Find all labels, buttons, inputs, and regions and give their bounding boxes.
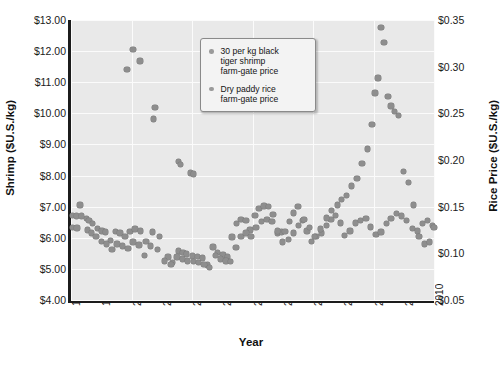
data-point <box>307 225 312 230</box>
data-point <box>148 243 153 248</box>
data-point <box>404 218 409 223</box>
data-point <box>301 217 306 222</box>
data-point <box>427 239 432 244</box>
legend-marker-shrimp-icon <box>209 49 214 54</box>
data-point <box>295 204 300 209</box>
left-axis-tick-label: $10.00 <box>34 108 66 119</box>
data-point <box>339 197 344 202</box>
data-point <box>385 94 390 99</box>
data-point <box>282 229 287 234</box>
data-point <box>388 103 393 108</box>
data-point <box>270 212 275 217</box>
data-point <box>104 241 109 246</box>
left-axis-tick-label: $8.00 <box>40 171 66 182</box>
data-point <box>372 90 377 95</box>
data-point <box>114 241 119 246</box>
data-point <box>384 221 389 226</box>
legend-label-shrimp: 30 per kg black tiger shrimp farm-gate p… <box>221 46 279 77</box>
data-point <box>420 221 425 226</box>
data-point <box>378 229 383 234</box>
data-point <box>388 216 393 221</box>
data-point <box>269 219 274 224</box>
data-point <box>138 228 143 233</box>
left-axis-tick-label: $4.00 <box>40 295 66 306</box>
data-point <box>200 255 205 260</box>
data-point <box>291 230 296 235</box>
data-point <box>318 226 323 231</box>
data-point <box>296 223 301 228</box>
data-point <box>399 213 404 218</box>
left-axis-tick-label: $13.00 <box>34 15 66 26</box>
right-axis-tick-label: $0.25 <box>438 108 464 119</box>
right-axis-tick-label: $0.30 <box>438 62 464 73</box>
data-point <box>184 251 189 256</box>
right-axis-tick-label: $0.20 <box>438 155 464 166</box>
data-point <box>137 58 142 63</box>
data-point <box>425 218 430 223</box>
data-point <box>155 247 160 252</box>
data-point <box>411 202 416 207</box>
data-point <box>130 239 135 244</box>
data-point <box>77 202 82 207</box>
data-point <box>103 229 108 234</box>
left-axis-tick-label: $5.00 <box>40 264 66 275</box>
chart-legend: 30 per kg black tiger shrimp farm-gate p… <box>200 38 316 112</box>
data-point <box>349 183 354 188</box>
data-point <box>233 245 238 250</box>
data-point <box>210 244 215 249</box>
data-point <box>416 234 421 239</box>
data-point <box>109 247 114 252</box>
data-point <box>124 67 129 72</box>
data-point <box>368 224 373 229</box>
data-point <box>266 204 271 209</box>
data-point <box>335 202 340 207</box>
left-axis-tick-label: $12.00 <box>34 46 66 57</box>
data-point <box>151 116 156 121</box>
data-point <box>291 210 296 215</box>
data-point <box>365 146 370 151</box>
x-axis-tick-label: 2010 <box>435 284 445 306</box>
data-point <box>125 246 130 251</box>
data-point <box>369 122 374 127</box>
data-point <box>275 228 280 233</box>
data-point <box>136 242 141 247</box>
data-point <box>201 262 206 267</box>
left-axis-tick-label: $11.00 <box>35 77 66 88</box>
data-point <box>248 234 253 239</box>
left-axis-title: Shrimp ($U.S./kg) <box>4 100 16 196</box>
x-axis-title: Year <box>0 336 502 348</box>
data-point <box>207 265 212 270</box>
data-point <box>174 254 179 259</box>
data-point <box>93 234 98 239</box>
gridline-horizontal <box>71 300 434 301</box>
right-axis-tick-label: $0.35 <box>438 15 464 26</box>
legend-marker-rice-icon <box>209 87 214 92</box>
legend-item-shrimp: 30 per kg black tiger shrimp farm-gate p… <box>207 46 309 77</box>
data-point <box>90 221 95 226</box>
data-point <box>253 225 258 230</box>
data-point <box>333 213 338 218</box>
data-point <box>152 105 157 110</box>
data-point <box>363 216 368 221</box>
data-point <box>178 162 183 167</box>
data-point <box>157 234 162 239</box>
data-point <box>286 237 291 242</box>
legend-item-rice: Dry paddy rice farm-gate price <box>207 84 309 104</box>
left-axis-tick-label: $7.00 <box>40 202 66 213</box>
data-point <box>280 239 285 244</box>
data-point <box>431 225 436 230</box>
data-point <box>338 220 343 225</box>
data-point <box>252 213 257 218</box>
data-point <box>168 262 173 267</box>
data-point <box>342 233 347 238</box>
data-point <box>396 113 401 118</box>
data-point <box>130 47 135 52</box>
data-point <box>328 217 333 222</box>
right-axis-tick-label: $0.15 <box>438 202 464 213</box>
data-point <box>324 215 329 220</box>
data-point <box>354 176 359 181</box>
data-point <box>122 234 127 239</box>
chart-figure: Shrimp ($U.S./kg) Rice Price ($U.S./kg) … <box>0 0 502 365</box>
data-point <box>191 171 196 176</box>
data-point <box>406 180 411 185</box>
